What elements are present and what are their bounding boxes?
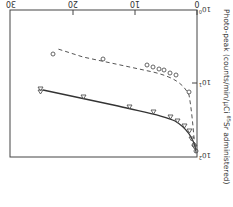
chart-rotated: 0 10 20 30 100 101 102 Photo-peak (count… (0, 0, 233, 207)
dashed-fit-curve (58, 49, 196, 153)
x-tick-label: 30 (6, 0, 16, 8)
circle-markers (51, 52, 198, 153)
y-tick-label: 100 (199, 5, 211, 15)
plot-frame (10, 10, 197, 157)
chart: 0 10 20 30 100 101 102 Photo-peak (count… (0, 0, 233, 207)
triangle-markers (38, 87, 197, 149)
y-tick-label: 101 (199, 78, 211, 88)
x-tick-label: 20 (68, 0, 78, 8)
y-axis-label: Photo-peak (counts/min/μCi 85Sr administ… (222, 9, 232, 185)
x-tick-label: 10 (130, 0, 140, 8)
solid-fit-curve (43, 90, 196, 150)
x-tick-label: 0 (194, 0, 199, 8)
y-tick-label: 102 (199, 151, 211, 161)
